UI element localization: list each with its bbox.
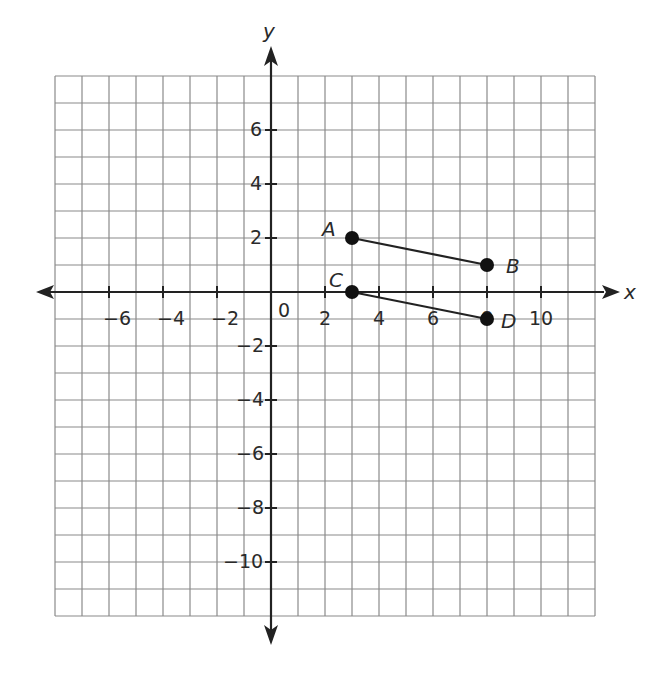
x-axis (36, 285, 620, 299)
x-tick-label: 6 (427, 307, 439, 329)
y-tick-label: −6 (236, 442, 264, 464)
x-tick-label: 10 (529, 307, 553, 329)
x-axis-label: x (623, 280, 636, 304)
point-b-label: B (506, 254, 520, 278)
point-d (480, 312, 494, 326)
y-axis-label: y (262, 19, 276, 43)
point-a (345, 231, 359, 245)
point-c (345, 285, 359, 299)
y-tick-label: 6 (250, 118, 262, 140)
x-tick-label: −2 (211, 307, 239, 329)
x-tick-label: −4 (157, 307, 185, 329)
y-tick-label: −2 (236, 334, 264, 356)
point-d-label: D (501, 309, 516, 333)
point-c-label: C (329, 268, 343, 292)
point-b (480, 258, 494, 272)
y-tick-label: −8 (236, 496, 264, 518)
y-tick-label: −10 (223, 550, 263, 572)
y-tick-label: 4 (250, 172, 262, 194)
grid-lines (55, 76, 595, 616)
origin-label: 0 (278, 299, 290, 321)
point-a-label: A (320, 217, 336, 241)
segment-ab (352, 238, 487, 265)
coordinate-plane: x y −6 −4 −2 0 2 4 6 8 10 6 4 2 −2 −4 −6… (0, 0, 667, 674)
y-tick-label: −4 (236, 388, 264, 410)
x-tick-label: −6 (103, 307, 131, 329)
y-tick-label: 2 (250, 226, 262, 248)
x-tick-label: 4 (373, 307, 385, 329)
x-axis-right-arrow-icon (602, 285, 620, 299)
x-tick-label: 2 (319, 307, 331, 329)
